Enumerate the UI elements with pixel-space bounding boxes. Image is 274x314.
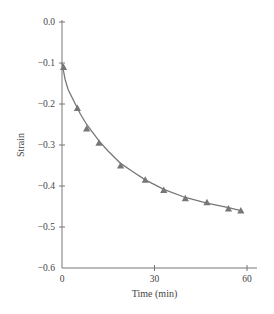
strain-vs-time-chart: 0.0−0.1−0.2−0.3−0.4−0.5−0.603060Time (mi… (0, 0, 274, 314)
y-tick-label: −0.5 (38, 222, 55, 232)
y-axis-title: Strain (15, 133, 26, 157)
fitted-curve-path (62, 63, 241, 211)
y-tick-label: −0.3 (38, 140, 55, 150)
fitted-curve (62, 63, 241, 211)
triangle-marker (60, 64, 67, 70)
x-tick-label: 0 (60, 274, 65, 284)
triangle-marker (142, 176, 149, 182)
x-tick-label: 30 (150, 274, 160, 284)
axes (59, 20, 257, 271)
y-tick-label: −0.2 (38, 99, 55, 109)
y-tick-label: −0.6 (38, 263, 55, 273)
y-tick-label: 0.0 (43, 17, 55, 27)
data-markers (60, 64, 244, 214)
triangle-marker (95, 139, 102, 145)
triangle-marker (74, 105, 81, 111)
y-tick-label: −0.1 (38, 58, 55, 68)
x-axis-title: Time (min) (132, 288, 177, 300)
x-tick-label: 60 (242, 274, 252, 284)
axis-labels: 0.0−0.1−0.2−0.3−0.4−0.5−0.603060Time (mi… (15, 17, 252, 300)
y-tick-label: −0.4 (38, 181, 55, 191)
